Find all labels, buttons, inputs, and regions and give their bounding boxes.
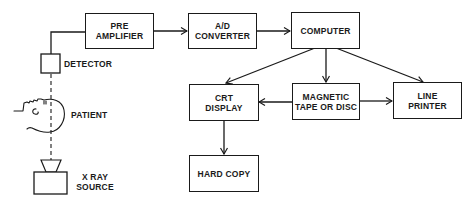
crt-label-line2: DISPLAY bbox=[205, 103, 242, 113]
magnetic-label-line2: TAPE OR DISC bbox=[295, 102, 357, 112]
computer-label: COMPUTER bbox=[300, 26, 350, 36]
printer-label-line1: LINE bbox=[417, 91, 437, 101]
preamp-label-line1: PRE bbox=[110, 21, 128, 31]
adc-box: A/D CONVERTER bbox=[188, 13, 257, 49]
xray-collimator-icon bbox=[41, 160, 61, 172]
hard-copy-box: HARD COPY bbox=[189, 155, 259, 192]
computer-to-crt-arrow bbox=[226, 48, 315, 83]
crt-label-line1: CRT bbox=[215, 93, 233, 103]
printer-label-line2: PRINTER bbox=[408, 101, 447, 111]
preamp-box: PRE AMPLIFIER bbox=[85, 13, 154, 49]
detector-to-preamp-line bbox=[51, 32, 85, 54]
xray-label-line1: X RAY bbox=[73, 172, 117, 182]
patient-label: PATIENT bbox=[71, 110, 108, 120]
computer-box: COMPUTER bbox=[291, 12, 360, 49]
diagram-canvas: PRE AMPLIFIER A/D CONVERTER COMPUTER CRT… bbox=[0, 0, 475, 208]
detector-label: DETECTOR bbox=[64, 59, 112, 69]
magnetic-label-line1: MAGNETIC bbox=[303, 92, 350, 102]
crt-display-box: CRT DISPLAY bbox=[189, 84, 259, 121]
adc-label-line1: A/D bbox=[215, 21, 230, 31]
magnetic-storage-box: MAGNETIC TAPE OR DISC bbox=[292, 83, 360, 120]
line-printer-box: LINE PRINTER bbox=[393, 82, 462, 119]
detector-icon bbox=[41, 54, 60, 73]
xray-source-label: X RAY SOURCE bbox=[73, 172, 117, 192]
computer-to-printer-arrow bbox=[336, 48, 423, 82]
hardcopy-label: HARD COPY bbox=[198, 169, 251, 179]
preamp-label-line2: AMPLIFIER bbox=[96, 31, 144, 41]
xray-source-icon bbox=[34, 172, 67, 194]
patient-head-icon bbox=[14, 99, 64, 132]
adc-label-line2: CONVERTER bbox=[195, 31, 250, 41]
xray-label-line2: SOURCE bbox=[73, 182, 117, 192]
